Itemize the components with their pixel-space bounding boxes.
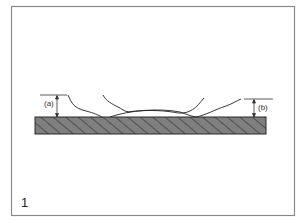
label-a: (a) — [44, 99, 54, 108]
label-b: (b) — [258, 103, 268, 112]
substrate — [35, 117, 266, 134]
figure-frame — [12, 7, 295, 216]
diagram-canvas: (a) (b) 1 — [0, 0, 298, 224]
figure-number: 1 — [21, 195, 28, 210]
